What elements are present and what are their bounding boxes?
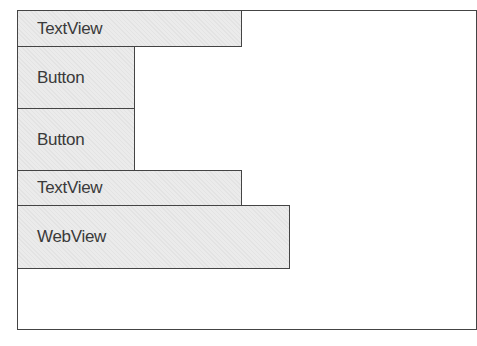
button-1[interactable]: Button — [17, 46, 135, 109]
button-2-label: Button — [37, 130, 84, 150]
button-2[interactable]: Button — [17, 108, 135, 171]
textview-2-label: TextView — [37, 178, 102, 198]
webview-label: WebView — [37, 227, 106, 247]
textview-1-label: TextView — [37, 19, 102, 39]
textview-1: TextView — [17, 10, 242, 47]
button-1-label: Button — [37, 68, 84, 88]
textview-2: TextView — [17, 170, 242, 206]
webview: WebView — [17, 205, 290, 269]
